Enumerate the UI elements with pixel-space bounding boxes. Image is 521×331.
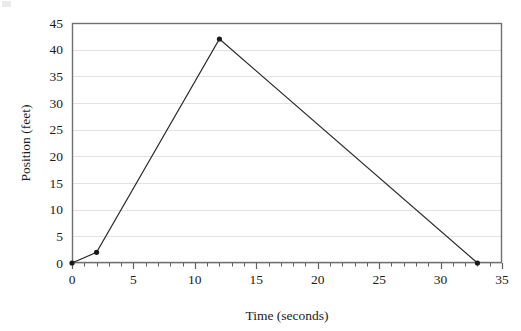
- y-tick-label: 40: [50, 42, 64, 57]
- x-tick-label: 10: [188, 272, 202, 287]
- data-point-marker: [94, 250, 99, 255]
- x-axis-title: Time (seconds): [245, 308, 328, 323]
- chart-container: 051015202530354045 05101520253035 Time (…: [0, 0, 521, 331]
- y-axis-tick-labels: 051015202530354045: [50, 16, 64, 271]
- y-tick-label: 45: [50, 16, 64, 31]
- y-tick-label: 15: [50, 176, 64, 191]
- x-tick-label: 0: [69, 272, 76, 287]
- y-tick-label: 30: [50, 96, 64, 111]
- data-point-marker: [69, 260, 74, 265]
- y-axis-title: Position (feet): [18, 105, 33, 182]
- data-point-marker: [217, 36, 222, 41]
- x-tick-label: 30: [434, 272, 448, 287]
- y-tick-label: 35: [50, 69, 64, 84]
- data-point-marker: [475, 260, 480, 265]
- plot-area: [72, 23, 502, 263]
- y-tick-label: 10: [50, 202, 64, 217]
- x-tick-label: 25: [372, 272, 386, 287]
- x-axis-tick-labels: 05101520253035: [69, 272, 509, 287]
- x-tick-label: 15: [250, 272, 264, 287]
- y-tick-label: 20: [50, 149, 64, 164]
- plot-background: [72, 23, 502, 263]
- y-tick-label: 0: [56, 256, 63, 271]
- x-tick-label: 5: [130, 272, 137, 287]
- x-tick-label: 35: [495, 272, 509, 287]
- x-tick-label: 20: [311, 272, 325, 287]
- y-tick-label: 25: [50, 122, 64, 137]
- y-tick-label: 5: [56, 229, 63, 244]
- position-vs-time-line-chart: 051015202530354045 05101520253035 Time (…: [0, 0, 521, 331]
